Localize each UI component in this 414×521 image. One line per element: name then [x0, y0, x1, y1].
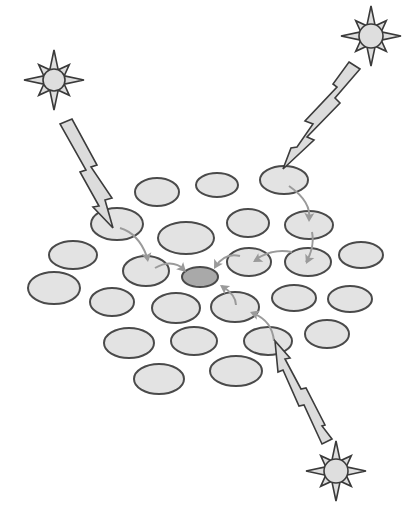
star-bottom-right-icon [306, 441, 366, 501]
particle-ellipse [196, 173, 238, 197]
particle-ellipse [227, 209, 269, 237]
star-core [359, 24, 383, 48]
reaction-center-ellipse [182, 267, 218, 287]
particle-ellipse [49, 241, 97, 269]
star-top-right-icon [341, 6, 401, 66]
photon-diagram [0, 0, 414, 521]
particle-ellipse [134, 364, 184, 394]
particle-ellipse [104, 328, 154, 358]
particle-ellipse [135, 178, 179, 206]
bolt-top-left-icon [60, 119, 113, 228]
particle-ellipse [28, 272, 80, 304]
diagram-canvas [0, 0, 414, 521]
particle-ellipse [171, 327, 217, 355]
particle-ellipse [272, 285, 316, 311]
bolt-bottom-right-icon [275, 341, 332, 444]
star-top-left-icon [24, 50, 84, 110]
particle-ellipse [260, 166, 308, 194]
bolt-top-right-icon [283, 62, 360, 169]
particle-ellipse [227, 248, 271, 276]
particle-ellipse [244, 327, 292, 355]
particle-ellipse [305, 320, 349, 348]
star-core [43, 69, 65, 91]
star-core [324, 459, 348, 483]
particle-ellipse [158, 222, 214, 254]
particle-ellipse [211, 292, 259, 322]
particle-ellipse [339, 242, 383, 268]
particle-ellipse [328, 286, 372, 312]
particle-ellipse [123, 256, 169, 286]
center-ellipse-group [182, 267, 218, 287]
particle-ellipse [152, 293, 200, 323]
particle-ellipse [210, 356, 262, 386]
particle-ellipse [90, 288, 134, 316]
